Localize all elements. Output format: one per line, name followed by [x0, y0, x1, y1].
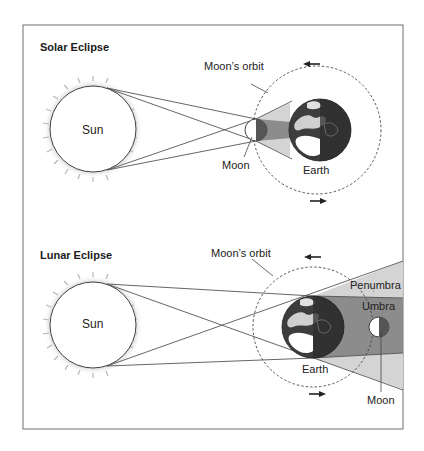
- solar-eclipse-title: Solar Eclipse: [40, 42, 109, 53]
- solar-earth-label: Earth: [303, 165, 329, 176]
- lunar-earth-label: Earth: [302, 364, 328, 375]
- solar-sun-label: Sun: [82, 124, 103, 136]
- lunar-eclipse-title: Lunar Eclipse: [40, 250, 112, 261]
- penumbra-label: Penumbra: [350, 280, 401, 291]
- eclipse-diagram: Solar Eclipse Sun Moon’s orbit Moon Eart…: [0, 0, 424, 451]
- lunar-moon-label: Moon: [367, 395, 395, 406]
- lunar-orbit-label: Moon’s orbit: [211, 248, 271, 259]
- umbra-label: Umbra: [362, 301, 395, 312]
- lunar-moon: [369, 317, 389, 337]
- lunar-sun-label: Sun: [82, 318, 103, 330]
- solar-moon: [245, 119, 267, 141]
- solar-orbit-label: Moon’s orbit: [204, 61, 264, 72]
- solar-moon-label: Moon: [222, 160, 250, 171]
